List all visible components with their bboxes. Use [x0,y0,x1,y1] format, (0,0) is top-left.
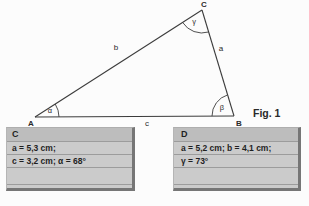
side-b-line [35,10,202,117]
card-d-title: D [174,128,298,142]
card-c-title: C [7,128,132,142]
card-d-line-3 [174,168,298,185]
side-a-line [202,10,234,116]
vertex-c-label: C [201,0,207,9]
angle-beta-label: β [220,103,225,112]
side-c-line [35,116,234,117]
card-c-line-2: c = 3,2 cm; α = 68° [7,155,132,168]
side-a-label: a [219,44,224,53]
card-c-filler [7,185,132,188]
card-d-filler [174,185,298,188]
side-b-label: b [114,43,119,52]
card-c-line-1: a = 5,3 cm; [7,142,132,155]
page: A B C a b c α β γ Fig. 1 C a = 5,3 cm; c… [0,0,309,206]
angle-alpha-label: α [48,106,53,115]
card-c-line-3 [7,168,132,185]
angle-alpha-arc [55,104,59,117]
card-d-line-2: γ = 73° [174,155,298,168]
task-card-c: C a = 5,3 cm; c = 3,2 cm; α = 68° [6,127,135,191]
side-c-label: c [145,119,149,128]
card-d-line-1: a = 5,2 cm; b = 4,1 cm; [174,142,298,155]
figure-caption: Fig. 1 [253,107,281,119]
task-card-d: D a = 5,2 cm; b = 4,1 cm; γ = 73° [173,127,301,191]
angle-gamma-label: γ [192,17,196,26]
